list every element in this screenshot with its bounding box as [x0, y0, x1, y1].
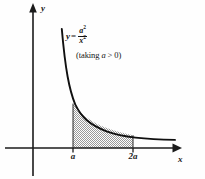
plot-canvas: [0, 0, 205, 179]
numerator-exponent: 2: [83, 24, 86, 30]
tick-label-a: a: [66, 152, 80, 161]
y-axis-label: y: [41, 4, 45, 13]
condition-prefix: (taking: [76, 50, 101, 60]
y-axis-arrow-icon: [29, 3, 37, 13]
equation-equals-sign: =: [70, 31, 78, 41]
tick-label-2a: 2a: [124, 152, 142, 161]
condition-note: (taking a > 0): [76, 50, 121, 60]
fraction-denominator: x2: [78, 37, 87, 46]
equation-fraction: a2 x2: [78, 27, 87, 45]
condition-suffix: > 0): [106, 50, 122, 60]
x-axis-arrow-icon: [173, 144, 183, 153]
figure-container: y x a 2a y = a2 x2 (taking a > 0): [0, 0, 205, 179]
shaded-region: [71, 98, 135, 150]
x-axis-label: x: [178, 155, 183, 164]
denominator-exponent: 2: [83, 34, 86, 40]
equation-annotation: y = a2 x2: [66, 27, 87, 45]
